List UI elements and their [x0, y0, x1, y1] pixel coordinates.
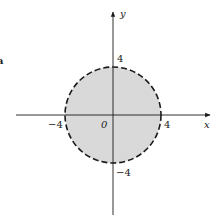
x-axis-label: x — [204, 119, 210, 130]
y-axis-label: y — [119, 8, 126, 19]
disk-diagram: y x 0 4 −4 −4 4 a — [0, 0, 223, 223]
tick-x-pos: 4 — [164, 119, 170, 130]
origin-label: 0 — [101, 119, 108, 130]
edge-fragment-label: a — [0, 55, 4, 66]
tick-x-neg: −4 — [48, 119, 63, 130]
tick-y-pos: 4 — [117, 53, 123, 64]
tick-y-neg: −4 — [116, 167, 131, 178]
